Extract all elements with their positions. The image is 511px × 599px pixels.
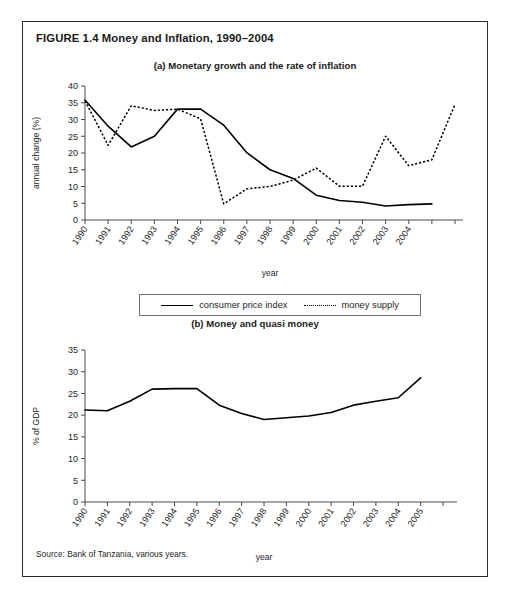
source-note: Source: Bank of Tanzania, various years. — [36, 549, 188, 559]
chart-panel-b: 05101520253035% of GDP199019911992199319… — [23, 330, 486, 565]
legend: consumer price index money supply — [139, 294, 421, 316]
y-tick-label: 5 — [73, 199, 78, 209]
chart-panel-a: 0510152025303540annual change (%)1990199… — [23, 72, 486, 292]
panel-b-plot: 05101520253035% of GDP199019911992199319… — [23, 330, 486, 565]
x-tick-label: 1991 — [92, 506, 112, 528]
x-tick-label: 1997 — [227, 506, 247, 528]
y-tick-label: 0 — [73, 497, 78, 507]
y-tick-label: 20 — [68, 148, 78, 158]
x-axis-title: year — [262, 268, 279, 278]
x-tick-label: 1993 — [137, 506, 157, 528]
x-tick-label: 1994 — [159, 506, 179, 528]
x-tick-label: 2003 — [361, 506, 381, 528]
y-tick-label: 20 — [68, 410, 78, 420]
y-tick-label: 5 — [73, 476, 78, 486]
x-tick-label: 1991 — [93, 224, 113, 246]
y-tick-label: 40 — [68, 81, 78, 91]
figure-container: FIGURE 1.4 Money and Inflation, 1990–200… — [22, 21, 488, 577]
x-tick-label: 2003 — [371, 224, 391, 246]
legend-label-cpi: consumer price index — [199, 300, 287, 310]
panel-b-title: (b) Money and quasi money — [23, 318, 487, 329]
y-tick-label: 35 — [68, 345, 78, 355]
x-tick-label: 1990 — [70, 224, 90, 246]
x-tick-label: 2005 — [406, 506, 426, 528]
x-tick-label: 1999 — [271, 506, 291, 528]
legend-label-money-supply: money supply — [342, 300, 399, 310]
x-tick-label: 1995 — [186, 224, 206, 246]
solid-line-swatch-icon — [161, 305, 193, 306]
y-tick-label: 30 — [68, 367, 78, 377]
x-tick-label: 2002 — [347, 224, 367, 246]
x-tick-label: 1996 — [204, 506, 224, 528]
series-line-1 — [85, 378, 421, 420]
series-line-2 — [85, 101, 455, 204]
x-tick-label: 1999 — [278, 224, 298, 246]
x-tick-label: 2000 — [301, 224, 321, 246]
x-tick-label: 2000 — [294, 506, 314, 528]
x-tick-label: 1998 — [249, 506, 269, 528]
y-tick-label: 30 — [68, 115, 78, 125]
y-tick-label: 15 — [68, 165, 78, 175]
x-tick-label: 2004 — [383, 506, 403, 528]
panel-a-title: (a) Monetary growth and the rate of infl… — [23, 60, 487, 71]
y-tick-label: 35 — [68, 98, 78, 108]
y-tick-label: 10 — [68, 454, 78, 464]
x-tick-label: 1998 — [255, 224, 275, 246]
x-tick-label: 1994 — [162, 224, 182, 246]
x-axis-title: year — [256, 552, 273, 562]
figure-title: FIGURE 1.4 Money and Inflation, 1990–200… — [36, 32, 274, 44]
x-tick-label: 1990 — [70, 506, 90, 528]
y-axis-title: % of GDP — [31, 407, 41, 445]
legend-entry-money-supply: money supply — [304, 300, 399, 310]
y-tick-label: 25 — [68, 132, 78, 142]
x-tick-label: 1996 — [209, 224, 229, 246]
y-axis-title: annual change (%) — [31, 117, 41, 189]
x-tick-label: 2002 — [338, 506, 358, 528]
x-tick-label: 2001 — [324, 224, 344, 246]
y-tick-label: 15 — [68, 432, 78, 442]
x-tick-label: 1997 — [232, 224, 252, 246]
x-tick-label: 1993 — [139, 224, 159, 246]
x-tick-label: 2001 — [316, 506, 336, 528]
dotted-line-swatch-icon — [304, 305, 336, 306]
y-tick-label: 10 — [68, 182, 78, 192]
y-tick-label: 0 — [73, 215, 78, 225]
x-tick-label: 1995 — [182, 506, 202, 528]
x-tick-label: 1992 — [116, 224, 136, 246]
x-tick-label: 1992 — [115, 506, 135, 528]
series-line-1 — [85, 100, 432, 206]
x-tick-label: 2004 — [394, 224, 414, 246]
y-tick-label: 25 — [68, 389, 78, 399]
panel-a-plot: 0510152025303540annual change (%)1990199… — [23, 72, 486, 292]
legend-entry-cpi: consumer price index — [161, 300, 287, 310]
